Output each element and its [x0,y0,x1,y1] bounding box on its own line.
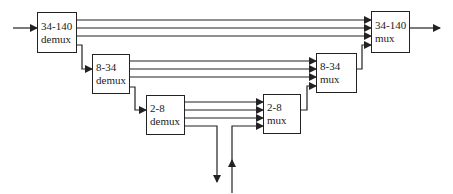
demux-8-34-box: 8-34 demux [92,54,130,94]
box-label-rate: 34-140 [41,20,76,33]
box-label-type: demux [150,115,184,128]
box-label-type: mux [320,73,356,86]
mux-cascade-line [357,45,371,69]
box-label: 2-8 demux [147,102,184,128]
box-label-type: mux [375,32,409,45]
drop-output-arrow [185,126,217,182]
demux-cascade-line [77,45,92,69]
add-input-line [232,126,263,162]
mux-34-140-box: 34-140 mux [371,11,410,53]
box-label: 8-34 mux [317,60,356,86]
box-label: 34-140 mux [372,19,409,45]
box-label-rate: 2-8 [267,101,300,114]
demux-cascade-line [130,87,146,110]
box-label-rate: 34-140 [375,19,409,32]
mux-2-8-box: 2-8 mux [263,94,301,134]
box-label-rate: 8-34 [96,61,129,74]
mux-8-34-box: 8-34 mux [316,53,357,93]
demux-34-140-box: 34-140 demux [37,12,77,53]
box-label-type: demux [96,74,129,87]
box-label: 8-34 demux [93,61,129,87]
mux-cascade-line [301,86,316,110]
box-label-type: demux [41,33,76,46]
multiplexer-hierarchy-diagram: 34-140 demux 8-34 demux 2-8 demux 2-8 mu… [0,0,453,194]
box-label: 2-8 mux [264,101,300,127]
box-label-type: mux [267,114,300,127]
box-label: 34-140 demux [38,20,76,46]
box-label-rate: 8-34 [320,60,356,73]
demux-2-8-box: 2-8 demux [146,95,185,135]
box-label-rate: 2-8 [150,102,184,115]
